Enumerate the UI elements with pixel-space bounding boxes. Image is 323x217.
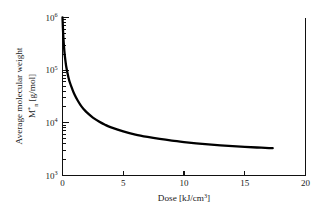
x-axis-title-tail: ] — [207, 193, 210, 203]
x-tick-label-5: 5 — [121, 178, 126, 188]
x-axis-title-text: Dose [kJ/cm — [158, 193, 204, 203]
figure-container: 05101520 103104105106 Dose [kJ/cm3] Aver… — [0, 0, 323, 217]
x-tick-label-10: 10 — [180, 178, 190, 188]
x-tick-label-0: 0 — [60, 178, 65, 188]
chart-background — [0, 0, 323, 217]
x-axis-title: Dose [kJ/cm3] — [158, 192, 210, 203]
y-axis-title-symbol: M — [27, 110, 37, 118]
chart-canvas: 05101520 103104105106 Dose [kJ/cm3] Aver… — [0, 0, 323, 217]
y-axis-title-line1: Average molecular weight — [14, 47, 24, 144]
y-axis-title-units: [g/mol] — [27, 74, 37, 104]
x-tick-label-20: 20 — [301, 178, 311, 188]
x-tick-label-15: 15 — [240, 178, 250, 188]
svg-text:Dose [kJ/cm3]: Dose [kJ/cm3] — [158, 192, 210, 203]
